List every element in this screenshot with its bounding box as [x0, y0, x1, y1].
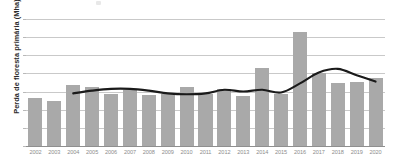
x-axis-tick-label: 2014: [253, 149, 272, 155]
x-axis-tick-label: 2004: [64, 149, 83, 155]
scan-artifact: [96, 1, 101, 5]
x-axis-tick-label: 2010: [177, 149, 196, 155]
x-axis-tick-label: 2019: [347, 149, 366, 155]
y-axis-title: Perda de floresta primária (Mha): [12, 0, 21, 122]
x-axis-tick-label: 2008: [139, 149, 158, 155]
x-axis-tick-label: 2012: [215, 149, 234, 155]
trend-line-path: [73, 69, 375, 94]
x-axis-labels-group: 2002200320042005200620072008200920102011…: [26, 149, 385, 163]
x-axis-tick-label: 2020: [366, 149, 385, 155]
x-axis-tick-label: 2009: [158, 149, 177, 155]
x-axis-tick-label: 2007: [120, 149, 139, 155]
x-axis-tick-label: 2013: [234, 149, 253, 155]
x-axis-tick-label: 2006: [102, 149, 121, 155]
x-axis-tick-label: 2018: [328, 149, 347, 155]
x-axis-tick-label: 2005: [83, 149, 102, 155]
x-axis-tick-label: 2002: [26, 149, 45, 155]
y-axis-tick-mark: [23, 146, 26, 147]
trend-line-group: [26, 19, 385, 146]
x-axis-tick-label: 2011: [196, 149, 215, 155]
x-axis-tick-label: 2015: [272, 149, 291, 155]
x-axis-baseline: [26, 146, 385, 147]
primary-forest-loss-chart: Perda de floresta primária (Mha) 0123456…: [0, 0, 400, 167]
plot-area: 01234567: [26, 19, 385, 146]
x-axis-tick-label: 2017: [309, 149, 328, 155]
x-axis-tick-label: 2016: [291, 149, 310, 155]
x-axis-tick-label: 2003: [45, 149, 64, 155]
